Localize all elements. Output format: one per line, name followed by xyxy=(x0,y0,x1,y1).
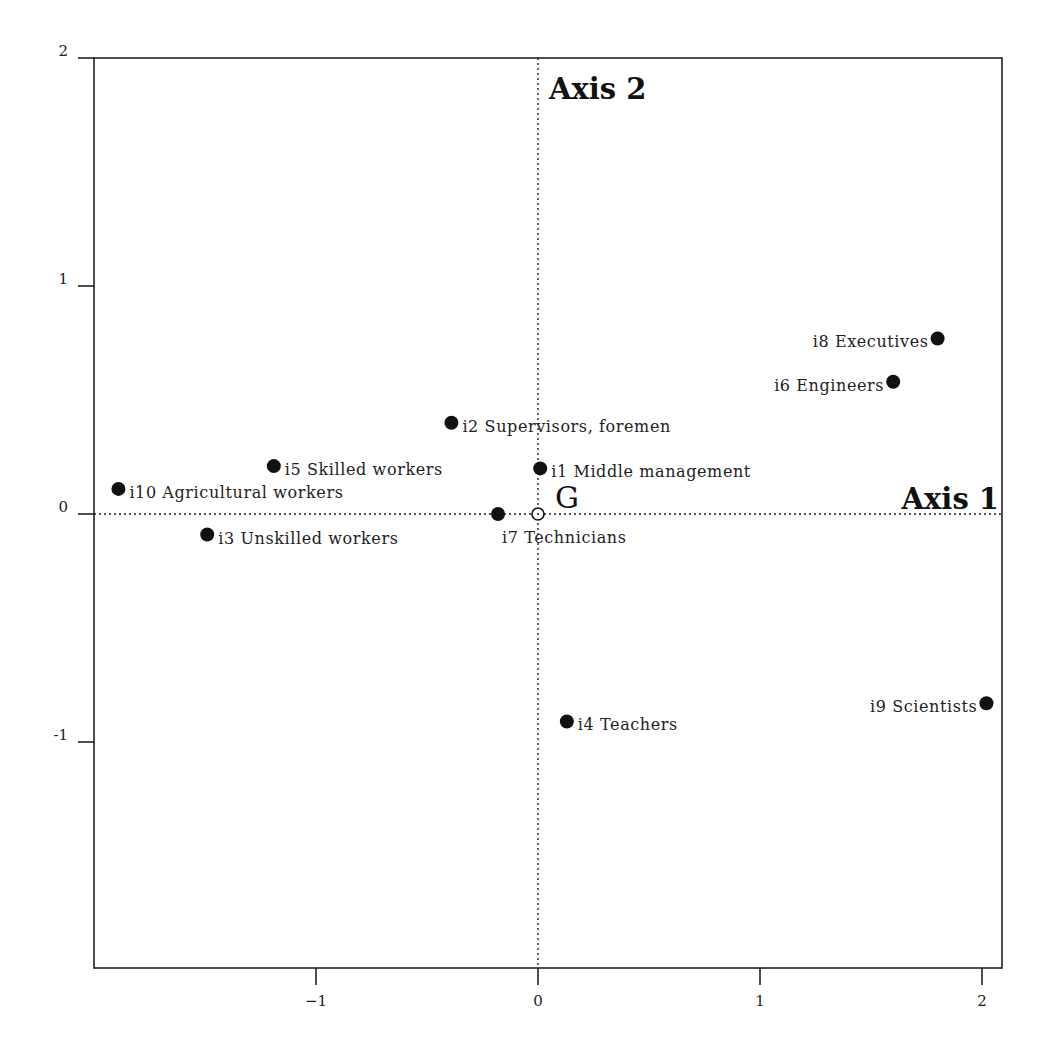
point-label: i1 Middle management xyxy=(551,462,751,481)
centroid-dot-icon xyxy=(537,513,539,515)
x-tick-label: 0 xyxy=(533,992,543,1010)
point-marker-icon xyxy=(444,416,458,430)
x-tick-label: 1 xyxy=(755,992,765,1010)
data-point-i1: i1 Middle management xyxy=(533,461,751,481)
point-label: i7 Technicians xyxy=(502,528,627,547)
data-point-i4: i4 Teachers xyxy=(560,714,678,734)
point-label: i2 Supervisors, foremen xyxy=(462,417,670,436)
point-marker-icon xyxy=(111,482,125,496)
point-label: i9 Scientists xyxy=(870,697,977,716)
x-tick-label: 2 xyxy=(977,992,987,1010)
data-point-i6: i6 Engineers xyxy=(774,375,900,395)
data-point-i2: i2 Supervisors, foremen xyxy=(444,416,670,436)
y-tick-label: 1 xyxy=(58,270,68,288)
point-label: i4 Teachers xyxy=(578,715,678,734)
plot-frame xyxy=(94,58,1002,968)
y-tick-label: -1 xyxy=(53,726,68,744)
point-label: i10 Agricultural workers xyxy=(129,483,343,502)
scatter-plot: 210-1 −1012 Axis 2 Axis 1 G i1 Middle ma… xyxy=(0,0,1046,1049)
x-axis-ticks: −1012 xyxy=(305,968,987,1010)
x-tick-label: −1 xyxy=(305,992,327,1010)
data-point-i5: i5 Skilled workers xyxy=(267,459,443,479)
centroid-label: G xyxy=(555,480,579,515)
point-label: i5 Skilled workers xyxy=(285,460,443,479)
point-marker-icon xyxy=(979,696,993,710)
axis-1-title: Axis 1 xyxy=(901,482,999,516)
data-point-i8: i8 Executives xyxy=(813,331,945,351)
data-point-i10: i10 Agricultural workers xyxy=(111,482,343,502)
data-points: i1 Middle managementi2 Supervisors, fore… xyxy=(111,331,993,734)
point-label: i6 Engineers xyxy=(774,376,884,395)
point-marker-icon xyxy=(560,714,574,728)
point-marker-icon xyxy=(533,461,547,475)
axis-2-title: Axis 2 xyxy=(548,72,646,106)
data-point-i3: i3 Unskilled workers xyxy=(200,528,398,548)
y-tick-label: 2 xyxy=(58,42,68,60)
point-marker-icon xyxy=(886,375,900,389)
point-marker-icon xyxy=(200,528,214,542)
point-marker-icon xyxy=(267,459,281,473)
y-tick-label: 0 xyxy=(58,498,68,516)
point-marker-icon xyxy=(491,507,505,521)
y-axis-ticks: 210-1 xyxy=(53,42,94,744)
point-marker-icon xyxy=(931,331,945,345)
point-label: i8 Executives xyxy=(813,332,929,351)
data-point-i9: i9 Scientists xyxy=(870,696,993,716)
point-label: i3 Unskilled workers xyxy=(218,529,398,548)
